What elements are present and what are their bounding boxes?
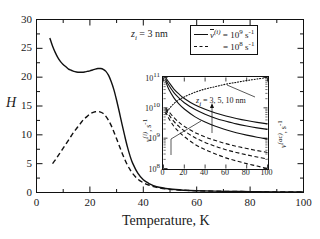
inset-curve (166, 81, 268, 139)
inset-y-tick-exponent: 9 (157, 131, 161, 139)
main-x-tick-label: 100 (290, 197, 318, 208)
legend-row-solid: v(i) = 109 s-1 (194, 28, 254, 40)
main-x-axis-label: Temperature, K (122, 214, 210, 228)
legend-label-solid: v(i) = 109 s-1 (210, 28, 254, 40)
inset-nu-unit-exp: -1 (141, 119, 149, 125)
inset-y-tick-label: 1010 (140, 102, 160, 113)
inset-nuac-superscript: (ac) (276, 133, 284, 144)
inset-x-tick-label: 0 (153, 169, 173, 177)
main-y-axis-label: H (6, 96, 16, 110)
inset-y-tick-base: 10 (145, 103, 153, 112)
inset-x-tick-label: 100 (257, 169, 277, 177)
legend-unit-exp-1: -1 (248, 28, 254, 36)
main-x-tick-label: 80 (236, 197, 264, 208)
legend-nu-superscript: (i) (214, 28, 221, 36)
inset-panel: zi = 3, 5, 10 nm (162, 76, 269, 170)
inset-nu-symbol: v (144, 138, 153, 142)
main-y-tick-label: 5 (10, 158, 32, 169)
legend-eq-2: = 10 (223, 42, 239, 52)
inset-x-tick-label: 60 (215, 169, 235, 177)
legend-box: v(i) = 109 s-1 = 108 s-1 (190, 25, 258, 55)
inset-nuac-symbol: v (279, 144, 288, 148)
legend-unit-exp-2: -1 (249, 40, 255, 48)
inset-curve (166, 111, 268, 168)
zi-value: = 3 nm (137, 28, 168, 39)
figure-panel: 051015202530 020406080100 H Temperature,… (0, 0, 320, 239)
main-x-tick-label: 60 (183, 197, 211, 208)
legend-key-solid-line (194, 29, 208, 39)
main-y-tick-label: 30 (10, 14, 32, 25)
main-y-tick-label: 10 (10, 129, 32, 140)
inset-nuac-unit-exp: -1 (276, 120, 284, 126)
main-x-tick-label: 20 (76, 197, 104, 208)
main-x-tick-label: 40 (129, 197, 157, 208)
legend-key-dashed-line (194, 41, 208, 51)
inset-y-tick-exponent: 10 (153, 101, 160, 109)
inset-plot-canvas (163, 77, 268, 169)
inset-zi-annotation: zi = 3, 5, 10 nm (196, 97, 246, 108)
inset-x-tick-label: 40 (194, 169, 214, 177)
legend-label-dashed: = 108 s-1 (223, 40, 254, 52)
main-y-tick-label: 20 (10, 71, 32, 82)
inset-curve (166, 108, 268, 153)
zi-annotation: zi = 3 nm (131, 29, 168, 42)
inset-curves (166, 78, 268, 169)
inset-nuac-rest: , s (279, 126, 288, 133)
inset-x-tick-label: 80 (236, 169, 256, 177)
inset-zi-values: = 3, 5, 10 nm (201, 96, 246, 105)
legend-eq-1: = 10 (221, 30, 240, 40)
main-x-tick-label: 0 (23, 197, 51, 208)
inset-y-tick-exponent: 11 (153, 71, 160, 79)
legend-row-dashed: = 108 s-1 (194, 40, 254, 52)
inset-y-axis-label: v(i), s-1 (142, 119, 153, 142)
inset-y-tick-label: 1011 (140, 72, 160, 83)
inset-x-tick-label: 20 (173, 169, 193, 177)
inset-nu-rest: , s (144, 125, 153, 132)
inset-nu-superscript: (i) (141, 132, 149, 139)
main-y-tick-label: 25 (10, 42, 32, 53)
inset-y-axis-label-right: v(ac), s-1 (277, 120, 288, 148)
